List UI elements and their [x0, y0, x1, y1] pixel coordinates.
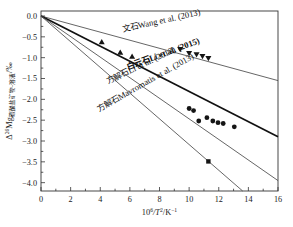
series-lines [41, 16, 278, 191]
marker-calcite-li-2012 [205, 115, 210, 120]
y-axis-title-text: Δ26Mg碳酸盐矿物-溶液/‰ [4, 62, 16, 140]
plot-frame [41, 11, 278, 191]
marker-calcite-mavromatis-2013 [206, 159, 210, 163]
y-axis-tick-labels: 0.0−0.5−1.0−1.5−2.0−2.5−3.0−3.5−4.0 [22, 12, 37, 188]
marker-calcite-li-2012 [216, 120, 221, 125]
x-tick-label-14: 14 [244, 195, 252, 204]
marker-dolomite-li-2015 [129, 54, 135, 59]
marker-aragonite-wang-2013 [194, 52, 200, 57]
x-tick-label-10: 10 [185, 195, 193, 204]
y-tick-label-−2.0: −2.0 [22, 95, 37, 104]
x-tick-label-8: 8 [157, 195, 161, 204]
x-tick-label-0: 0 [39, 195, 43, 204]
y-tick-label-−1.0: −1.0 [22, 54, 37, 63]
plot-border [41, 11, 278, 191]
series-line-calcite-li-2012 [41, 16, 278, 181]
figure-container: 0246810121416 0.0−0.5−1.0−1.5−2.0−2.5−3.… [0, 0, 293, 227]
marker-calcite-li-2012 [221, 121, 226, 126]
marker-aragonite-wang-2013 [205, 56, 211, 61]
x-axis-tick-labels: 0246810121416 [39, 195, 282, 204]
y-tick-label-−1.5: −1.5 [22, 74, 37, 83]
marker-calcite-li-2012 [191, 108, 196, 113]
label-aragonite-wang-2013-latin: Wang et al. (2013) [137, 7, 202, 31]
marker-calcite-li-2012 [187, 106, 192, 111]
y-tick-label-−3.0: −3.0 [22, 137, 37, 146]
series-annotations: 文石Wang et al. (2013)白云石Li et al. (2015)方… [95, 7, 201, 114]
x-tick-label-2: 2 [69, 195, 73, 204]
y-tick-label-−2.5: −2.5 [22, 116, 37, 125]
y-tick-label-−4.0: −4.0 [22, 179, 37, 188]
x-axis-title: 106/T2/K−1 [142, 207, 177, 217]
marker-dolomite-li-2015 [99, 39, 105, 44]
marker-calcite-li-2012 [210, 119, 215, 124]
y-axis-ticks [41, 16, 45, 183]
x-tick-label-4: 4 [98, 195, 102, 204]
marker-calcite-li-2012 [196, 119, 201, 124]
mg-isotope-fractionation-chart: 0246810121416 0.0−0.5−1.0−1.5−2.0−2.5−3.… [0, 0, 293, 227]
marker-calcite-li-2012 [232, 124, 237, 129]
y-tick-label-−0.5: −0.5 [22, 33, 37, 42]
y-tick-label-0.0: 0.0 [27, 12, 37, 21]
x-tick-label-6: 6 [128, 195, 132, 204]
marker-aragonite-wang-2013 [199, 54, 205, 59]
marker-dolomite-li-2015 [117, 49, 123, 54]
x-tick-label-16: 16 [274, 195, 282, 204]
x-tick-label-12: 12 [215, 195, 223, 204]
y-axis-title: Δ26Mg碳酸盐矿物-溶液/‰ [4, 62, 16, 140]
y-tick-label-−3.5: −3.5 [22, 158, 37, 167]
